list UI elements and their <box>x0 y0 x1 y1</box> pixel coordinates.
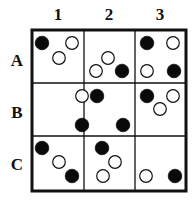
black-circle-icon <box>167 64 181 78</box>
white-circle-icon <box>167 37 180 50</box>
white-circle-icon <box>109 156 122 169</box>
black-circle-icon <box>140 36 154 50</box>
black-circle-icon <box>140 89 154 103</box>
white-circle-icon <box>140 170 153 183</box>
white-circle-icon <box>53 52 66 65</box>
black-circle-icon <box>35 36 49 50</box>
black-circle-icon <box>116 118 130 132</box>
black-circle-icon <box>75 118 89 132</box>
black-circle-icon <box>168 169 182 183</box>
white-circle-icon <box>53 156 66 169</box>
black-circle-icon <box>95 141 109 155</box>
white-circle-icon <box>97 170 110 183</box>
white-circle-icon <box>102 52 115 65</box>
white-circle-icon <box>167 90 180 103</box>
white-circle-icon <box>141 65 154 78</box>
white-circle-icon <box>76 90 89 103</box>
white-circle-icon <box>154 103 167 116</box>
white-circle-icon <box>90 65 103 78</box>
black-circle-icon <box>115 64 129 78</box>
white-circle-icon <box>66 37 79 50</box>
puzzle-grid <box>0 0 195 201</box>
black-circle-icon <box>90 89 104 103</box>
black-circle-icon <box>35 141 49 155</box>
black-circle-icon <box>65 169 79 183</box>
circles-layer <box>35 36 182 183</box>
